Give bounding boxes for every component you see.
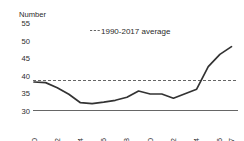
x-tick-label-2012: 2012 bbox=[169, 138, 178, 141]
x-tick-label-2004: 2004 bbox=[76, 138, 85, 141]
y-tick-label-30: 30 bbox=[22, 107, 30, 116]
y-tick-label-35: 35 bbox=[22, 89, 30, 98]
chart-canvas: Number 55 50 45 40 35 30 1990-2017 avera… bbox=[0, 0, 244, 141]
y-axis-title: Number bbox=[19, 10, 46, 19]
y-tick-label-45: 45 bbox=[22, 54, 30, 63]
y-tick-label-50: 50 bbox=[22, 37, 30, 46]
x-tick-label-2008: 2008 bbox=[122, 138, 131, 141]
line-chart: Number 55 50 45 40 35 30 1990-2017 avera… bbox=[0, 0, 244, 141]
y-tick-label-40: 40 bbox=[22, 72, 30, 81]
x-tick-label-2017: 2017 bbox=[227, 138, 236, 141]
legend-label-average: 1990-2017 average bbox=[101, 27, 171, 36]
x-tick-label-2002: 2002 bbox=[53, 138, 62, 141]
y-tick-label-55: 55 bbox=[22, 19, 30, 28]
x-tick-label-2014: 2014 bbox=[192, 138, 201, 141]
series-line-main bbox=[34, 47, 232, 104]
x-tick-label-2006: 2006 bbox=[99, 138, 108, 141]
x-tick-label-2016: 2016 bbox=[215, 138, 224, 141]
x-tick-label-2000: 2000 bbox=[30, 138, 39, 141]
x-tick-label-2010: 2010 bbox=[146, 138, 155, 141]
